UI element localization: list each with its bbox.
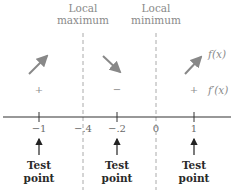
- tick-label: −.4: [68, 123, 98, 134]
- local-minimum-label: Local minimum: [121, 2, 191, 26]
- increasing-arrow-icon: [29, 56, 47, 74]
- test-point-label: Test point: [19, 159, 59, 185]
- test-point-label: Test point: [97, 159, 137, 185]
- f-label: f(x): [208, 48, 226, 60]
- decreasing-arrow-icon: [103, 56, 120, 72]
- f-prime-label: f′(x): [208, 84, 228, 96]
- test-point-label: Test point: [174, 159, 214, 185]
- tick-label: −.2: [102, 123, 132, 134]
- sign-positive: +: [187, 84, 201, 95]
- tick-label: 1: [179, 123, 209, 134]
- sign-positive: +: [32, 84, 46, 95]
- tick-label: −1: [24, 123, 54, 134]
- local-maximum-label: Local maximum: [48, 2, 118, 26]
- increasing-arrow-icon: [185, 57, 201, 74]
- tick-label: 0: [141, 123, 171, 134]
- sign-negative: −: [110, 84, 124, 95]
